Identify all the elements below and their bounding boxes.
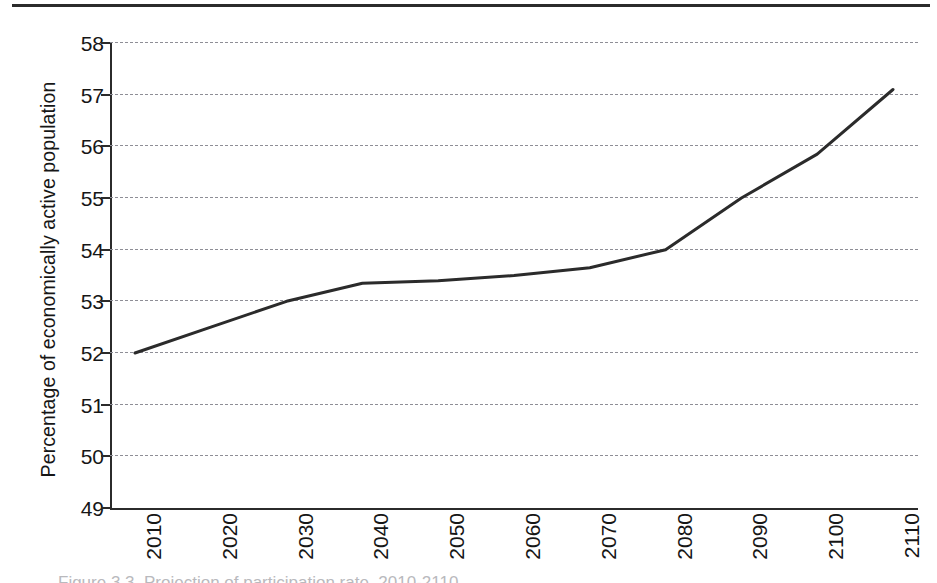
x-tick-label: 2080 (674, 513, 695, 560)
y-axis-tick-mark (101, 300, 110, 302)
y-axis-tick-mark (101, 352, 110, 354)
y-axis-tick-mark (101, 42, 110, 44)
x-tick-label: 2030 (295, 513, 316, 560)
y-axis-tick-mark (101, 507, 110, 509)
x-tick-label: 2020 (219, 513, 240, 560)
x-tick-label: 2090 (749, 513, 770, 560)
x-axis-tick-labels: 2010202020302040205020602070208020902100… (110, 513, 918, 583)
x-tick-label: 2040 (370, 513, 391, 560)
y-axis-tick-mark (101, 145, 110, 147)
x-tick-label: 2070 (598, 513, 619, 560)
data-series-line (110, 43, 918, 508)
figure-caption-partial: Figure 3.3. Projection of participation … (58, 574, 618, 583)
line-chart: Percentage of economically active popula… (0, 0, 937, 583)
y-axis-tick-mark (101, 455, 110, 457)
y-axis-tick-mark (101, 249, 110, 251)
x-tick-label: 2110 (901, 513, 922, 558)
y-axis-tick-mark (101, 94, 110, 96)
plot-area (110, 43, 918, 508)
y-axis-tick-mark (101, 197, 110, 199)
y-axis-tick-labels: 58575655545352515049 (56, 0, 104, 583)
y-axis-tick-mark (101, 404, 110, 406)
x-tick-label: 2100 (825, 513, 846, 560)
series-path (135, 90, 893, 354)
x-tick-label: 2060 (522, 513, 543, 560)
x-tick-label: 2010 (143, 513, 164, 560)
x-axis-line (110, 508, 918, 510)
x-tick-label: 2050 (446, 513, 467, 560)
figure-page: Percentage of economically active popula… (0, 0, 937, 583)
